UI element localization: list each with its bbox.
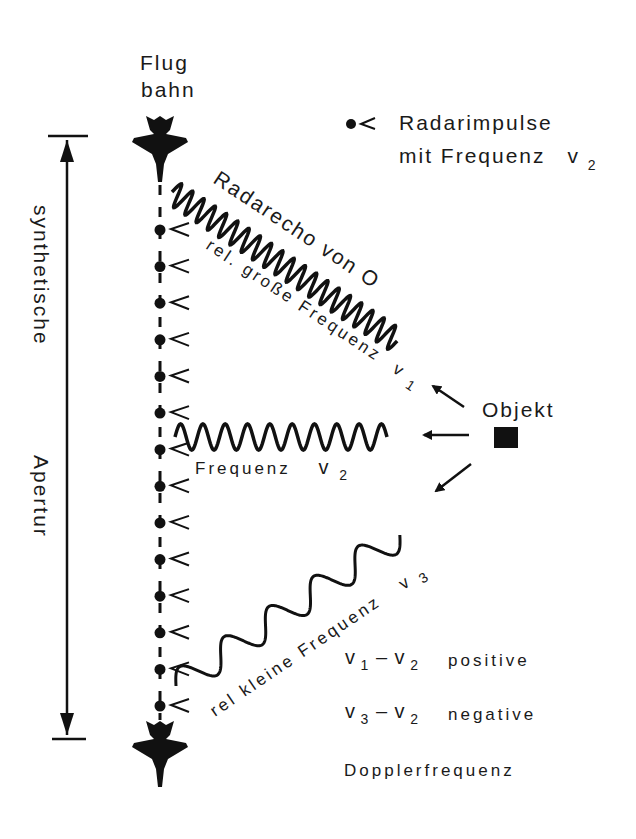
- aperture-label-apertur: Apertur: [30, 455, 53, 538]
- pulse-emission-icon: [171, 479, 189, 492]
- mid-frequency-var: v: [319, 456, 332, 478]
- pulse-emission-icon: [171, 699, 189, 712]
- pulse-dot-icon: [155, 334, 166, 345]
- row1-sub-a: 1: [361, 657, 369, 673]
- echo-wave-mid-frequency: [175, 424, 387, 450]
- row1-minus: –: [376, 646, 388, 668]
- pulse-dot-icon: [155, 481, 166, 492]
- row1-var-b: v: [395, 646, 405, 668]
- pulse-dot-icon: [155, 627, 166, 638]
- arrow-down-left-icon: [436, 464, 471, 491]
- pulse-emission-icon: [171, 296, 189, 309]
- pulse-emission-icon: [171, 589, 189, 602]
- pulse-emission-icon: [171, 223, 189, 236]
- row1-var-a: v: [345, 646, 355, 668]
- pulse-emission-icon: [171, 260, 189, 273]
- doppler-summary: v 1 – v 2 positive v 3 – v 2 negative Do…: [344, 646, 536, 780]
- doppler-row2-expression: v 3 – v 2: [345, 700, 418, 728]
- high-frequency-label: rel. große Frequenz v 1: [200, 235, 425, 395]
- doppler-row2-sign: negative: [448, 705, 536, 724]
- pulse-dot-icon: [155, 444, 166, 455]
- legend-sub: 2: [588, 157, 598, 173]
- row2-sub-a: 3: [361, 711, 369, 727]
- pulse-dot-icon: [155, 591, 166, 602]
- pulse-dot-icon: [155, 225, 166, 236]
- low-frequency-sub: 3: [415, 567, 433, 586]
- legend-line2-text: mit Frequenz: [399, 144, 546, 167]
- mid-frequency-text: Frequenz: [195, 459, 291, 478]
- pulse-emission-icon: [171, 406, 189, 419]
- doppler-footer: Dopplerfrequenz: [344, 761, 515, 780]
- pulse-dot-icon: [155, 298, 166, 309]
- aircraft-top-icon: [132, 116, 188, 182]
- flightpath-title-line2: bahn: [141, 78, 196, 101]
- legend-dot-icon: [346, 119, 356, 129]
- pulse-emission-icon: [171, 443, 189, 456]
- legend: Radarimpulse mit Frequenz v 2: [346, 111, 598, 173]
- row1-sub-b: 2: [410, 657, 418, 673]
- legend-var: v: [567, 144, 580, 167]
- mid-frequency-sub: 2: [339, 467, 350, 483]
- pulse-dot-icon: [155, 517, 166, 528]
- pulse-dot-icon: [155, 371, 166, 382]
- pulse-emission-icon: [171, 553, 189, 566]
- pulse-dot-icon: [155, 664, 166, 675]
- row2-var-b: v: [395, 700, 405, 722]
- row2-var-a: v: [345, 700, 355, 722]
- flightpath-title-line1: Flug: [140, 51, 189, 74]
- row2-sub-b: 2: [410, 711, 418, 727]
- row2-minus: –: [376, 700, 388, 722]
- doppler-row1-sign: positive: [448, 651, 530, 670]
- pulse-dot-icon: [155, 554, 166, 565]
- mid-frequency-label: Frequenz v 2: [195, 456, 350, 483]
- legend-pulse-icon: [361, 118, 375, 129]
- object-square-icon: [494, 427, 518, 448]
- reflection-arrows: [424, 386, 471, 491]
- arrow-up-left-icon: [433, 386, 464, 407]
- low-frequency-var: v: [395, 571, 415, 593]
- pulse-emission-icon: [171, 662, 189, 675]
- pulse-emission-icon: [171, 516, 189, 529]
- pulse-dot-icon: [155, 701, 166, 712]
- object-label: Objekt: [482, 398, 555, 421]
- doppler-row1-expression: v 1 – v 2: [345, 646, 418, 674]
- pulse-dot-icon: [155, 408, 166, 419]
- legend-line1: Radarimpulse: [399, 111, 553, 134]
- pulse-emission-icon: [171, 626, 189, 639]
- aperture-label-synthetische: synthetische: [30, 205, 53, 346]
- high-frequency-var: v: [390, 359, 410, 381]
- aperture-dimension-line: [48, 136, 88, 739]
- legend-line2: mit Frequenz v 2: [399, 144, 598, 173]
- synthetic-aperture-radar-diagram: Flug bahn synthetische Apertur Radarimpu…: [0, 0, 636, 839]
- high-frequency-sub: 1: [403, 376, 421, 395]
- aircraft-bottom-icon: [132, 721, 188, 787]
- pulse-dot-icon: [155, 261, 166, 272]
- pulse-emission-icon: [171, 333, 189, 346]
- pulse-emission-icon: [171, 369, 189, 382]
